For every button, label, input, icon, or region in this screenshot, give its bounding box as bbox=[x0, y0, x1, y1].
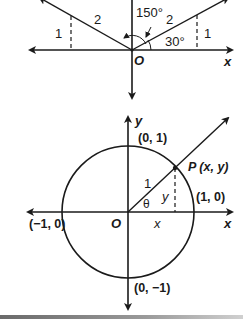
x-axis-label: x bbox=[223, 216, 232, 231]
right-segment-label: 2 bbox=[166, 12, 173, 27]
x-axis-label: x bbox=[223, 54, 232, 69]
top-point-label: (0, 1) bbox=[138, 131, 167, 145]
right-point-label: (1, 0) bbox=[196, 190, 225, 204]
origin-dot bbox=[130, 48, 133, 51]
x-component-label: x bbox=[153, 216, 161, 231]
ray-150 bbox=[40, 0, 132, 50]
angle-pointer bbox=[146, 27, 151, 37]
left-point-label: (−1, 0) bbox=[29, 217, 65, 231]
origin-label: O bbox=[111, 216, 121, 231]
right-height-label: 1 bbox=[204, 26, 211, 41]
theta-label: θ bbox=[143, 197, 150, 211]
trig-figure: 1 2 150° 2 30° 1 O x y (0, 1) P (x, y) 1… bbox=[0, 0, 243, 319]
radius-label: 1 bbox=[144, 176, 151, 191]
point-p-label: P (x, y) bbox=[188, 160, 229, 174]
left-height-label: 1 bbox=[55, 26, 62, 41]
left-segment-label: 2 bbox=[94, 12, 101, 27]
reference-angle-diagram: 1 2 150° 2 30° 1 O x bbox=[30, 0, 232, 98]
unit-circle-diagram: y (0, 1) P (x, y) 1 y (1, 0) θ (−1, 0) O… bbox=[28, 113, 232, 309]
y-axis-label: y bbox=[134, 113, 143, 128]
page-bottom-rule bbox=[0, 315, 243, 319]
origin-label: O bbox=[134, 53, 144, 68]
bottom-point-label: (0, −1) bbox=[134, 281, 170, 295]
angle-arc-150 bbox=[124, 35, 146, 44]
angle-arc-30 bbox=[148, 40, 151, 50]
point-p bbox=[173, 166, 177, 170]
angle-150-label: 150° bbox=[136, 5, 163, 20]
angle-30-label: 30° bbox=[165, 34, 185, 49]
y-component-label: y bbox=[161, 189, 170, 204]
